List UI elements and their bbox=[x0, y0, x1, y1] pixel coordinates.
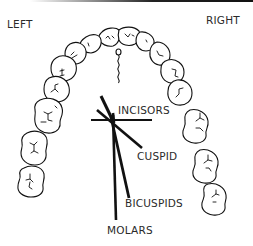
tooth-left-third-molar bbox=[18, 166, 44, 197]
side-label-left: LEFT bbox=[7, 18, 33, 30]
tooth-right-first-molar bbox=[183, 110, 208, 144]
side-label-right: RIGHT bbox=[206, 14, 240, 26]
tooth-right-second-bicuspid bbox=[168, 80, 192, 105]
incisors-tick bbox=[113, 113, 114, 123]
label-cuspid: CUSPID bbox=[137, 150, 177, 162]
tooth-right-third-molar bbox=[202, 184, 226, 216]
dental-arch-drawing bbox=[0, 0, 253, 246]
dental-arch-diagram: LEFT RIGHT INCISORS CUSPID BICUSPIDS MOL… bbox=[0, 0, 253, 246]
tooth-left-first-molar bbox=[35, 98, 63, 133]
label-molars: MOLARS bbox=[107, 224, 153, 236]
label-incisors: INCISORS bbox=[118, 104, 170, 116]
molars-pointer bbox=[113, 115, 116, 220]
label-bicuspids: BICUSPIDS bbox=[125, 197, 183, 209]
midline-frenum bbox=[116, 49, 121, 83]
tooth-right-second-molar bbox=[193, 150, 218, 184]
